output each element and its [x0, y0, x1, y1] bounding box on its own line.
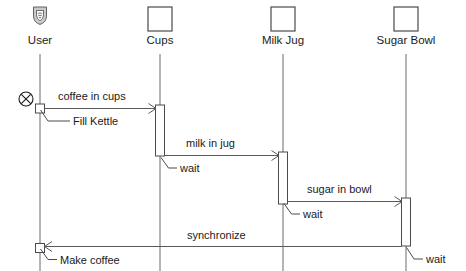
participant-label-sugarbowl: Sugar Bowl	[377, 34, 436, 46]
leader-label-wait-cups: wait	[179, 162, 200, 174]
participant-label-milkjug: Milk Jug	[262, 34, 304, 46]
sequence-diagram-svg: User Cups Milk Jug Sugar Bowl	[0, 0, 466, 271]
leader-label-wait-milkjug: wait	[302, 208, 323, 220]
leader-make-coffee: Make coffee	[41, 249, 120, 266]
start-marker-circled-x-icon	[19, 92, 33, 106]
message-synchronize[interactable]: synchronize	[45, 229, 402, 252]
leader-label-fill-kettle: Fill Kettle	[73, 115, 118, 127]
participant-label-cups: Cups	[147, 34, 174, 46]
activation-bar-sugarbowl	[402, 198, 411, 246]
object-box-icon-milkjug	[271, 7, 295, 31]
participant-user[interactable]: User	[28, 7, 52, 271]
user-event-box-bottom	[36, 244, 45, 253]
object-box-icon-sugarbowl	[394, 7, 418, 31]
sequence-diagram-canvas: User Cups Milk Jug Sugar Bowl	[0, 0, 466, 271]
leader-line-wait-cups	[161, 158, 177, 169]
leader-label-wait-sugarbowl: wait	[425, 253, 446, 265]
activation-bar-milkjug	[279, 152, 288, 204]
message-label-coffee-in-cups: coffee in cups	[58, 90, 126, 102]
leader-wait-cups: wait	[161, 158, 200, 175]
participant-label-user: User	[28, 34, 52, 46]
leader-label-make-coffee: Make coffee	[60, 254, 120, 266]
message-milk-in-jug[interactable]: milk in jug	[165, 137, 280, 161]
activation-bar-cups	[156, 105, 165, 156]
message-label-synchronize: synchronize	[187, 229, 246, 241]
message-sugar-in-bowl[interactable]: sugar in bowl	[288, 183, 403, 207]
leader-line-wait-milkjug	[284, 204, 300, 215]
leader-fill-kettle: Fill Kettle	[41, 110, 119, 127]
leader-wait-milkjug: wait	[284, 204, 323, 221]
message-coffee-in-cups[interactable]: coffee in cups	[45, 90, 157, 114]
message-label-sugar-in-bowl: sugar in bowl	[307, 183, 372, 195]
leader-wait-sugarbowl: wait	[407, 248, 446, 266]
object-box-icon-cups	[148, 7, 172, 31]
user-event-box-top	[36, 104, 45, 113]
message-label-milk-in-jug: milk in jug	[186, 137, 235, 149]
actor-shield-icon	[34, 7, 47, 25]
leader-line-wait-sugarbowl	[407, 248, 424, 260]
participant-milkjug[interactable]: Milk Jug	[262, 7, 304, 271]
